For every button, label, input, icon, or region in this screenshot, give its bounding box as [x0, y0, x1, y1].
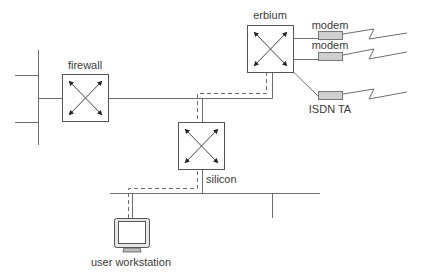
router-erbium[interactable]: erbium	[248, 9, 294, 73]
erbium-label: erbium	[253, 9, 287, 21]
user-workstation-label: user workstation	[91, 256, 171, 268]
serial-link-zigzag	[343, 89, 407, 99]
router-silicon[interactable]: silicon	[179, 123, 237, 186]
modem-2-label: modem	[312, 39, 349, 51]
silicon-label: silicon	[206, 173, 237, 185]
firewall-label: firewall	[68, 59, 102, 71]
network-diagram: firewall erbium silicon modem modem	[0, 0, 423, 280]
modem-1-label: modem	[312, 19, 349, 31]
left-backbone	[15, 50, 62, 145]
modem-2[interactable]: modem	[312, 39, 407, 61]
isdn-ta[interactable]: ISDN TA	[309, 89, 407, 115]
router-firewall[interactable]: firewall	[63, 59, 109, 122]
bottom-lan	[110, 194, 320, 221]
modem-1[interactable]: modem	[312, 19, 407, 40]
isdn-ta-label: ISDN TA	[309, 103, 352, 115]
serial-link-zigzag	[343, 49, 407, 59]
monitor-icon	[115, 219, 150, 253]
serial-link-zigzag	[343, 29, 407, 39]
user-workstation[interactable]: user workstation	[91, 219, 171, 269]
